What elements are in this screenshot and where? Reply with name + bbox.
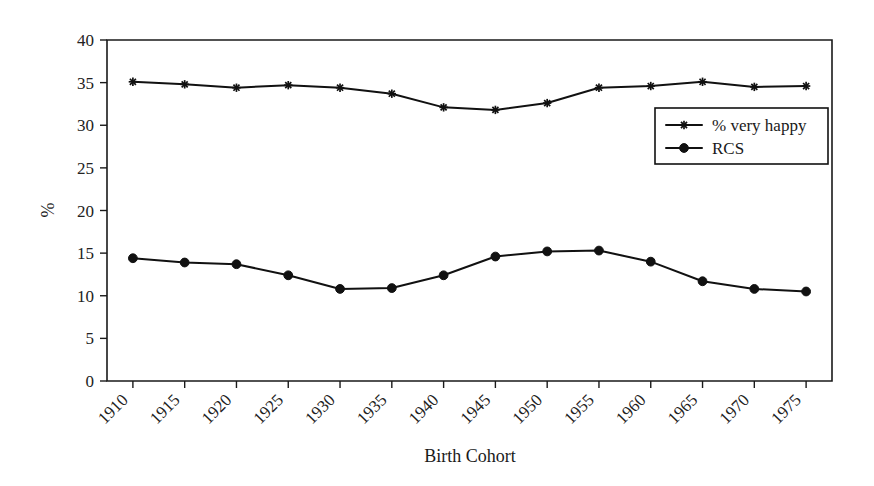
data-point-marker — [129, 78, 137, 86]
line-chart: 0510152025303540 19101915192019251930193… — [0, 0, 874, 486]
data-point-marker — [388, 90, 396, 98]
data-point-marker — [180, 258, 189, 267]
legend-label: % very happy — [712, 116, 807, 135]
y-tick-label: 40 — [77, 31, 94, 50]
y-tick-label: 10 — [77, 287, 94, 306]
data-point-marker — [284, 271, 293, 280]
y-tick-label: 20 — [77, 202, 94, 221]
data-point-marker — [180, 80, 188, 88]
data-point-marker — [698, 277, 707, 286]
y-axis-title: % — [38, 203, 58, 218]
data-point-marker — [439, 271, 448, 280]
data-point-marker — [128, 254, 137, 263]
data-point-marker — [646, 257, 655, 266]
chart-figure: 0510152025303540 19101915192019251930193… — [0, 0, 874, 486]
data-point-marker — [802, 82, 810, 90]
legend-star-marker-icon — [680, 121, 688, 129]
data-point-marker — [543, 247, 552, 256]
data-point-marker — [387, 284, 396, 293]
legend-circle-marker-icon — [680, 144, 689, 153]
data-point-marker — [647, 82, 655, 90]
chart-legend: % very happyRCS — [655, 108, 828, 164]
data-point-marker — [595, 246, 604, 255]
data-point-marker — [336, 285, 345, 294]
y-tick-label: 5 — [86, 329, 95, 348]
data-point-marker — [802, 287, 811, 296]
y-tick-label: 15 — [77, 244, 94, 263]
legend-label: RCS — [712, 139, 744, 158]
y-tick-label: 25 — [77, 159, 94, 178]
data-point-marker — [595, 84, 603, 92]
y-tick-label: 0 — [86, 372, 95, 391]
data-point-marker — [491, 106, 499, 114]
x-axis-title: Birth Cohort — [424, 446, 516, 466]
data-point-marker — [698, 78, 706, 86]
data-point-marker — [750, 83, 758, 91]
y-tick-label: 30 — [77, 116, 94, 135]
data-point-marker — [543, 99, 551, 107]
data-point-marker — [439, 103, 447, 111]
data-point-marker — [284, 81, 292, 89]
data-point-marker — [232, 84, 240, 92]
data-point-marker — [750, 285, 759, 294]
data-point-marker — [491, 252, 500, 261]
data-point-marker — [336, 84, 344, 92]
y-tick-label: 35 — [77, 74, 94, 93]
data-point-marker — [232, 260, 241, 269]
